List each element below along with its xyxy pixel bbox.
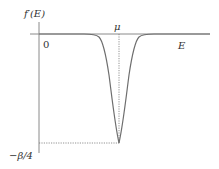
fermi-derivative-diagram: f′(E) 0 μ E −β/4 <box>0 0 219 169</box>
x-axis-label: E <box>178 41 185 51</box>
y-axis-label: f′(E) <box>24 9 45 19</box>
origin-label: 0 <box>43 40 49 50</box>
min-value-label: −β/4 <box>9 151 33 161</box>
plot-svg <box>0 0 219 169</box>
mu-label: μ <box>114 22 121 32</box>
